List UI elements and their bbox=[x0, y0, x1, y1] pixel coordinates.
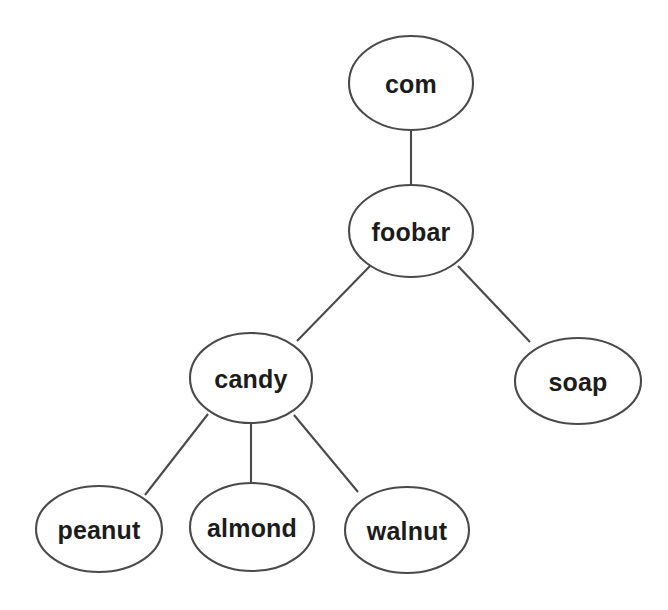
node-peanut[interactable]: peanut bbox=[36, 486, 162, 572]
node-group: com foobar candy soap peanut almond bbox=[36, 36, 641, 573]
edge-foobar-soap bbox=[458, 266, 530, 342]
node-soap-label: soap bbox=[548, 368, 607, 396]
node-candy[interactable]: candy bbox=[190, 333, 312, 423]
tree-diagram-canvas: com foobar candy soap peanut almond bbox=[0, 0, 668, 610]
node-soap[interactable]: soap bbox=[515, 338, 641, 424]
node-candy-label: candy bbox=[214, 365, 287, 393]
edge-group bbox=[145, 130, 530, 495]
node-com[interactable]: com bbox=[349, 36, 473, 130]
edge-foobar-candy bbox=[297, 266, 370, 341]
node-almond[interactable]: almond bbox=[190, 483, 314, 571]
edge-candy-peanut bbox=[145, 414, 208, 495]
node-foobar[interactable]: foobar bbox=[349, 185, 473, 277]
tree-diagram: com foobar candy soap peanut almond bbox=[0, 0, 668, 610]
edge-candy-walnut bbox=[294, 415, 358, 492]
node-almond-label: almond bbox=[207, 514, 297, 542]
node-com-label: com bbox=[385, 70, 437, 98]
node-walnut[interactable]: walnut bbox=[345, 487, 469, 573]
node-walnut-label: walnut bbox=[366, 517, 448, 545]
node-foobar-label: foobar bbox=[372, 218, 451, 246]
node-peanut-label: peanut bbox=[57, 516, 141, 544]
